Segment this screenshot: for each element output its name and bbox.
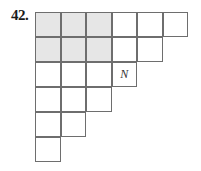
grid-cell	[35, 87, 61, 112]
grid-cell	[35, 137, 61, 162]
grid-cell-shaded	[61, 37, 87, 62]
grid-cell	[137, 12, 163, 37]
grid-cell	[35, 62, 61, 87]
grid-cell	[61, 62, 87, 87]
grid-cell	[163, 12, 189, 37]
grid-cell	[137, 37, 163, 62]
grid-cell-labeled: N	[112, 62, 138, 87]
grid-cell-shaded	[86, 37, 112, 62]
grid-cell	[112, 12, 138, 37]
grid-cell	[86, 87, 112, 112]
grid-cell-shaded	[61, 12, 87, 37]
grid-cell-shaded	[86, 12, 112, 37]
grid-cell-shaded	[35, 12, 61, 37]
grid-cell	[61, 87, 87, 112]
grid-cell	[35, 112, 61, 137]
grid-cell-shaded	[35, 37, 61, 62]
grid-cell	[112, 37, 138, 62]
grid-cell	[86, 62, 112, 87]
grid-cell	[61, 112, 87, 137]
problem-number: 42.	[11, 7, 28, 24]
